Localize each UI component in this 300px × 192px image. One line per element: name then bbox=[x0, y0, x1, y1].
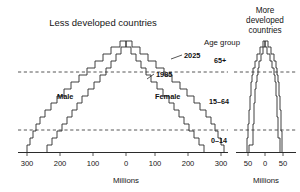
x-tick-label-right-200: 200 bbox=[182, 159, 195, 168]
x-axis-title-left: Millions bbox=[113, 176, 139, 185]
population-pyramid-figure: Less developed countries More developed … bbox=[0, 0, 300, 192]
annotation-2025: 2025 bbox=[184, 51, 200, 60]
x-tick-label-left-0: 0 bbox=[124, 159, 128, 168]
annotation-male: Male bbox=[57, 92, 73, 101]
x-tick-label-left-100: 100 bbox=[87, 159, 100, 168]
panel-title-less-developed: Less developed countries bbox=[49, 17, 157, 28]
x-tick-label-left-300: 300 bbox=[21, 159, 34, 168]
x-tick-label-right-100: 100 bbox=[149, 159, 162, 168]
annotation-1985: 1985 bbox=[156, 70, 172, 79]
panel-title-more-developed-line1: More bbox=[256, 6, 275, 15]
x-tick-label-right-300: 300 bbox=[215, 159, 228, 168]
age-group-15-64: 15–64 bbox=[209, 97, 229, 106]
panel-title-more-developed-line2: developed bbox=[246, 16, 284, 25]
panel-title-more-developed-line3: countries bbox=[248, 26, 281, 35]
chart-canvas: Less developed countries More developed … bbox=[0, 0, 300, 192]
x-tick-label-md-0: 0 bbox=[263, 159, 267, 168]
x-axis-title-right: Millions bbox=[253, 176, 279, 185]
age-group-0-14: 0–14 bbox=[211, 136, 227, 145]
x-tick-label-md-50-right: 50 bbox=[279, 159, 287, 168]
age-group-axis-label: Age group bbox=[204, 38, 241, 47]
x-tick-label-left-200: 200 bbox=[54, 159, 67, 168]
age-group-65-plus: 65+ bbox=[214, 56, 226, 65]
x-tick-label-md-50-left: 50 bbox=[244, 159, 252, 168]
annotation-female: Female bbox=[155, 92, 180, 101]
